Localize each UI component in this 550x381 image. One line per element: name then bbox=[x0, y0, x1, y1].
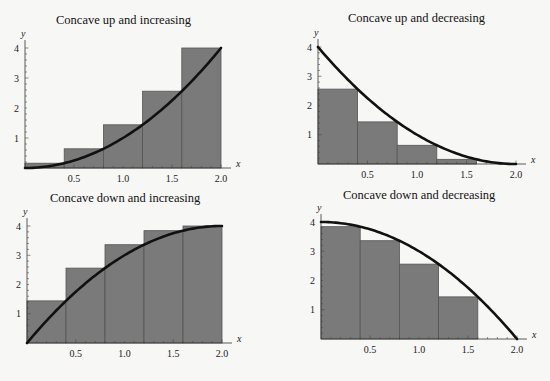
riemann-rectangle bbox=[397, 145, 437, 164]
x-tick-label: 0.5 bbox=[68, 173, 81, 184]
y-tick-label: 2 bbox=[310, 275, 315, 286]
y-axis-label: y bbox=[313, 27, 319, 38]
x-tick-label: 1.0 bbox=[411, 169, 424, 180]
y-tick-label: 2 bbox=[307, 100, 312, 111]
riemann-rectangle bbox=[105, 245, 144, 343]
x-tick-label: 2.0 bbox=[215, 173, 228, 184]
y-tick-label: 1 bbox=[16, 308, 21, 319]
y-axis-label: y bbox=[22, 206, 28, 217]
chart-panel-1: 0.51.01.52.01234xy bbox=[307, 27, 536, 180]
y-tick-label: 4 bbox=[16, 221, 21, 232]
y-tick-label: 3 bbox=[14, 73, 19, 84]
x-tick-label: 1.5 bbox=[166, 173, 179, 184]
x-tick-label: 2.0 bbox=[216, 348, 229, 359]
x-tick-label: 1.0 bbox=[117, 173, 130, 184]
x-tick-label: 2.0 bbox=[511, 344, 524, 355]
riemann-rectangle bbox=[182, 48, 221, 168]
y-tick-label: 2 bbox=[14, 103, 19, 114]
riemann-rectangle bbox=[358, 122, 398, 164]
y-tick-label: 4 bbox=[310, 217, 315, 228]
riemann-rectangle bbox=[399, 264, 438, 339]
x-tick-label: 1.5 bbox=[460, 169, 473, 180]
y-tick-label: 3 bbox=[307, 71, 312, 82]
riemann-rectangle bbox=[360, 241, 399, 339]
riemann-rectangle bbox=[66, 268, 105, 343]
riemann-rectangle bbox=[143, 91, 182, 168]
y-tick-label: 3 bbox=[16, 250, 21, 261]
riemann-rectangle bbox=[144, 231, 183, 343]
riemann-sum-charts: 0.51.01.52.01234xy0.51.01.52.01234xy0.51… bbox=[0, 0, 550, 381]
y-tick-label: 1 bbox=[310, 304, 315, 315]
y-axis-label: y bbox=[316, 202, 322, 213]
chart-panel-0: 0.51.01.52.01234xy bbox=[14, 28, 241, 184]
y-tick-label: 4 bbox=[14, 43, 19, 54]
x-tick-label: 1.0 bbox=[118, 348, 131, 359]
x-tick-label: 0.5 bbox=[70, 348, 83, 359]
riemann-rectangle bbox=[321, 227, 360, 339]
riemann-rectangle bbox=[318, 89, 358, 164]
chart-panel-2: 0.51.01.52.01234xy bbox=[16, 206, 242, 359]
y-tick-label: 4 bbox=[307, 42, 312, 53]
chart-panel-3: 0.51.01.52.01234xy bbox=[310, 202, 537, 355]
x-axis-label: x bbox=[236, 333, 242, 344]
x-axis-label: x bbox=[530, 154, 536, 165]
x-tick-label: 1.5 bbox=[462, 344, 475, 355]
x-tick-label: 0.5 bbox=[364, 344, 377, 355]
x-axis-label: x bbox=[531, 329, 537, 340]
x-axis-label: x bbox=[235, 158, 241, 169]
y-tick-label: 2 bbox=[16, 279, 21, 290]
riemann-rectangle bbox=[183, 226, 222, 343]
x-tick-label: 1.0 bbox=[413, 344, 426, 355]
riemann-rectangle bbox=[439, 297, 478, 339]
y-tick-label: 1 bbox=[14, 133, 19, 144]
x-tick-label: 2.0 bbox=[510, 169, 523, 180]
x-tick-label: 1.5 bbox=[167, 348, 180, 359]
y-tick-label: 1 bbox=[307, 129, 312, 140]
x-tick-label: 0.5 bbox=[361, 169, 374, 180]
y-tick-label: 3 bbox=[310, 246, 315, 257]
y-axis-label: y bbox=[20, 28, 26, 39]
